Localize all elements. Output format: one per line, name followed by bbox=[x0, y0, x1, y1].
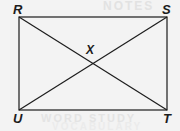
vertex-label-r: R bbox=[13, 3, 22, 16]
intersection-label-x: X bbox=[86, 44, 94, 56]
vertex-label-u: U bbox=[13, 112, 22, 125]
figure-drawing-canvas bbox=[0, 0, 180, 131]
vertex-label-t: T bbox=[163, 112, 171, 125]
vertex-label-s: S bbox=[162, 3, 171, 16]
geometry-figure: NOTES WORD STUDY VOCABULARY R S U T X bbox=[0, 0, 180, 131]
